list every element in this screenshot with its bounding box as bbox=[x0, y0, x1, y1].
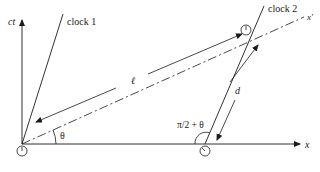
distance-label: d bbox=[235, 85, 241, 96]
distance-arrow-upper bbox=[230, 45, 258, 82]
clock-icon-origin bbox=[17, 146, 27, 156]
clock2-label: clock 2 bbox=[268, 3, 297, 14]
length-label: ℓ bbox=[131, 75, 135, 86]
x-axis-label: x bbox=[304, 139, 310, 150]
distance-arrow-lower bbox=[217, 100, 235, 140]
theta-arc bbox=[53, 130, 56, 144]
spacetime-diagram: ct x x′ clock 1 clock 2 ℓ d θ π/2 + θ bbox=[0, 0, 320, 172]
clock1-worldline bbox=[22, 14, 63, 144]
ct-axis-label: ct bbox=[8, 16, 15, 27]
clock2-worldline bbox=[205, 6, 264, 144]
theta-label: θ bbox=[60, 130, 65, 141]
length-arrow-upper bbox=[148, 34, 242, 74]
clock1-label: clock 1 bbox=[67, 16, 96, 27]
length-arrow-lower bbox=[36, 88, 116, 122]
obtuse-angle-label: π/2 + θ bbox=[177, 120, 204, 130]
clock-icon-clock2-start bbox=[200, 146, 210, 156]
x-prime-axis bbox=[22, 17, 304, 144]
clock-icon-clock2-event bbox=[241, 25, 251, 35]
x-prime-axis-label: x′ bbox=[306, 12, 314, 22]
